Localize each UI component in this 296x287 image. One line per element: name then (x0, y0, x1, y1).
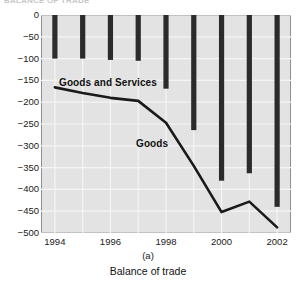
y-axis-tick-label: −200 (1, 97, 39, 107)
bar (80, 15, 85, 59)
bar (163, 15, 168, 89)
bar (219, 15, 224, 181)
y-axis-tick-label: −300 (1, 141, 39, 151)
plot-area: Goods and Services Goods (41, 15, 291, 233)
bar (108, 15, 113, 60)
x-axis-tick-label: 2002 (267, 236, 288, 247)
x-axis-tick-labels: 19941996199820002002 (41, 236, 291, 250)
y-axis-tick-label: −500 (1, 228, 39, 238)
panel-letter: (a) (0, 250, 296, 261)
x-axis-tick-label: 1996 (100, 236, 121, 247)
bar (247, 15, 252, 173)
figure-balance-of-trade: BALANCE OF TRADE 0−50−100−150−200−250−30… (0, 0, 296, 287)
y-axis-tick-label: −450 (1, 206, 39, 216)
x-axis-tick-label: 1998 (155, 236, 176, 247)
x-axis-tick-label: 1994 (44, 236, 65, 247)
bar (52, 15, 57, 59)
y-axis-tick-label: −350 (1, 163, 39, 173)
y-axis-tick-label: −150 (1, 75, 39, 85)
series-label-goods: Goods (136, 138, 168, 149)
plot-canvas (41, 15, 291, 233)
y-axis-tick-label: −250 (1, 119, 39, 129)
figure-caption: Balance of trade (0, 265, 296, 277)
bar (191, 15, 196, 130)
clipped-heading: BALANCE OF TRADE (4, 0, 164, 5)
y-axis-tick-label: −50 (1, 32, 39, 42)
x-axis-tick-label: 2000 (211, 236, 232, 247)
series-label-goods-and-services: Goods and Services (59, 77, 157, 88)
bar (136, 15, 141, 61)
y-axis-tick-label: −100 (1, 54, 39, 64)
y-axis-tick-label: −400 (1, 184, 39, 194)
bar (275, 15, 280, 207)
y-axis-tick-label: 0 (1, 10, 39, 20)
